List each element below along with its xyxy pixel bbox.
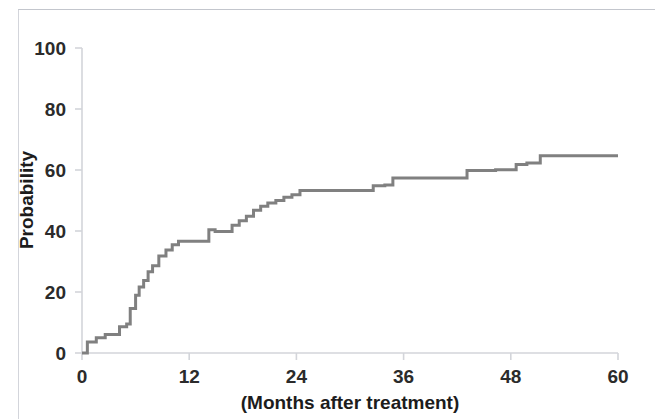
y-tick-label: 80 [45, 99, 66, 120]
y-axis-tick-labels: 020406080100 [34, 38, 66, 364]
x-axis-tick-labels: 01224364860 [77, 366, 629, 387]
y-tick-label: 100 [34, 38, 66, 59]
x-tick-label: 12 [179, 366, 200, 387]
x-axis-ticks [82, 353, 618, 360]
x-tick-label: 24 [286, 366, 308, 387]
y-axis-ticks [75, 48, 82, 353]
x-tick-label: 36 [393, 366, 414, 387]
x-tick-label: 0 [77, 366, 88, 387]
x-axis-title: (Months after treatment) [241, 392, 460, 413]
plot-background [82, 48, 618, 353]
y-tick-label: 20 [45, 282, 66, 303]
x-tick-label: 60 [607, 366, 628, 387]
chart-svg: 020406080100 01224364860 Probability (Mo… [0, 0, 655, 419]
y-tick-label: 0 [55, 343, 66, 364]
y-axis-title: Probability [16, 150, 37, 249]
x-tick-label: 48 [500, 366, 521, 387]
y-tick-label: 60 [45, 160, 66, 181]
y-tick-label: 40 [45, 221, 66, 242]
kaplan-meier-chart: 020406080100 01224364860 Probability (Mo… [0, 0, 655, 419]
